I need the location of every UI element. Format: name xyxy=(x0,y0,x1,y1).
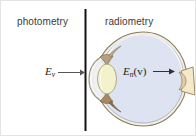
label-radiometry: radiometry xyxy=(105,16,153,27)
illuminance-symbol-subscript: v xyxy=(52,70,55,79)
label-photometry: photometry xyxy=(17,16,68,27)
irradiance-symbol-subscript: n xyxy=(130,70,134,79)
figure-canvas: photometry radiometry Ev En(v) xyxy=(0,0,196,136)
label-spectral-irradiance-symbol: En(v) xyxy=(123,66,146,78)
lens-group xyxy=(98,64,117,94)
irradiance-symbol-base: E xyxy=(123,65,130,77)
irradiance-symbol-argument: (v) xyxy=(133,65,146,77)
illuminance-arrow xyxy=(58,70,85,76)
label-illuminance-symbol: Ev xyxy=(45,66,55,78)
illuminance-symbol-base: E xyxy=(45,65,52,77)
